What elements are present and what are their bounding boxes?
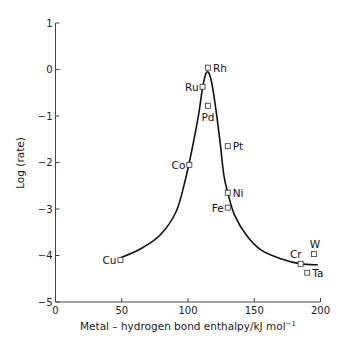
data-point-ni: Ni [225,187,243,199]
square-marker-icon [205,65,210,70]
point-label: Fe [212,202,224,214]
square-marker-icon [298,261,303,266]
y-tick-label: −5 [38,297,53,308]
point-label: Cu [102,254,116,266]
data-point-cu: Cu [102,254,123,266]
y-tick-label: −3 [38,204,53,215]
square-marker-icon [225,144,230,149]
square-marker-icon [311,252,316,257]
square-marker-icon [118,258,123,263]
x-tick-label: 150 [245,305,264,316]
data-point-co: Co [172,159,192,171]
y-axis-label: Log (rate) [14,137,26,189]
point-label: Co [172,159,186,171]
square-marker-icon [225,205,230,210]
fit-curve [120,72,317,265]
x-tick-label: 200 [311,305,330,316]
square-marker-icon [187,162,192,167]
y-tick-label: 0 [46,64,52,75]
x-tick-label: 50 [115,305,128,316]
point-label: W [310,238,321,250]
y-tick-label: 1 [46,18,52,29]
square-marker-icon [305,270,310,275]
square-marker-icon [205,103,210,108]
data-point-pt: Pt [225,140,243,152]
point-label: Ru [185,81,198,93]
y-tick-label: −1 [38,111,53,122]
y-tick-label: −2 [38,157,53,168]
data-point-pd: Pd [201,103,214,123]
point-label: Ta [311,267,323,279]
x-axis-label: Metal – hydrogen bond enthalpy/kJ mol−1 [80,320,296,332]
data-point-fe: Fe [212,202,230,214]
square-marker-icon [225,190,230,195]
y-tick-label: −4 [38,250,53,261]
volcano-plot: 10−1−2−3−4−5050100150200 CuCoRuRhPdPtNiF… [0,0,343,345]
x-tick-label: 0 [52,305,58,316]
point-label: Pt [233,140,243,152]
x-tick-label: 100 [178,305,197,316]
point-label: Cr [290,248,302,260]
point-label: Pd [201,111,214,123]
point-label: Rh [213,62,227,74]
square-marker-icon [200,84,205,89]
data-point-w: W [310,238,321,256]
point-label: Ni [233,187,244,199]
data-point-ta: Ta [305,267,324,279]
